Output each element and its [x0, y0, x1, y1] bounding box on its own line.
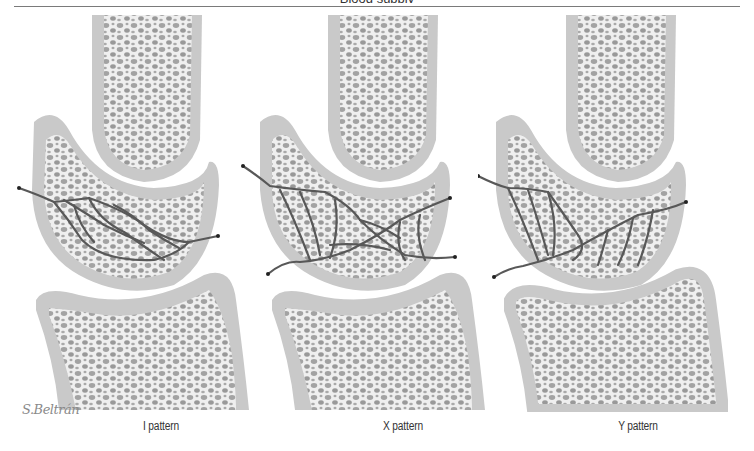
caption-i-pattern: I pattern [102, 419, 221, 433]
panel-x-pattern [240, 10, 490, 412]
figure-title: Blood supply [0, 0, 754, 3]
panel-i-pattern: S.Beltrán [4, 10, 254, 412]
bone-joint-diagram-i [4, 10, 254, 412]
caption-y-pattern: Y pattern [579, 419, 698, 433]
bone-joint-diagram-y [478, 10, 728, 412]
bone-joint-diagram-x [240, 10, 490, 412]
panel-y-pattern [478, 10, 728, 412]
title-rule [14, 6, 740, 7]
artist-signature: S.Beltrán [22, 402, 79, 417]
caption-x-pattern: X pattern [344, 419, 463, 433]
